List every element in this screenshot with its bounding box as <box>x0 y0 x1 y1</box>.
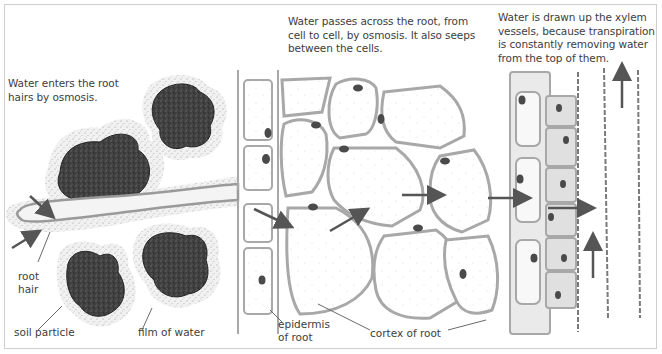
label-soil-particle: soil particle <box>14 326 75 339</box>
epidermis-cells <box>238 70 278 334</box>
label-epidermis: epidermis of root <box>278 318 330 344</box>
caption-root-hairs: Water enters the root hairs by osmosis. <box>8 77 119 104</box>
caption-xylem: Water is drawn up the xylem vessels, bec… <box>498 11 655 65</box>
cortex-cells <box>281 78 497 318</box>
arrow-into-root-hair-bottom <box>12 232 38 248</box>
endodermis-cells <box>510 72 576 334</box>
xylem-vessels <box>578 68 640 332</box>
label-cortex: cortex of root <box>370 327 441 340</box>
label-film-of-water: film of water <box>138 326 204 339</box>
caption-across-root: Water passes across the root, from cell … <box>288 15 475 56</box>
label-root-hair: root hair <box>18 270 39 296</box>
